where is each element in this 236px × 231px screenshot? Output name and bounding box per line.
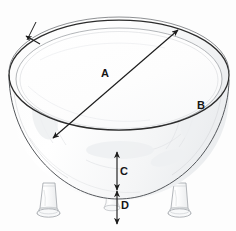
leg-left: [37, 183, 60, 217]
bowl-dimension-diagram: A B C D: [0, 0, 236, 231]
technical-line-drawing: [0, 0, 236, 231]
leg-right: [168, 183, 191, 217]
dimension-label-b: B: [197, 100, 205, 111]
dimension-label-d: D: [121, 200, 129, 211]
dimension-label-a: A: [101, 68, 109, 79]
bowl-top-opening: [9, 17, 229, 130]
dimension-label-c: C: [120, 166, 128, 177]
